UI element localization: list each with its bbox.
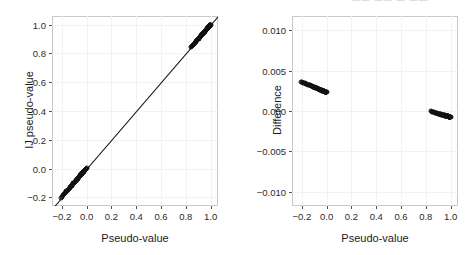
data-points-right [292,16,458,206]
x-tick-label: 0.2 [105,211,118,222]
x-tick-label: 0.6 [154,211,167,222]
x-tick-mark [302,206,303,209]
x-tick-mark [62,206,63,209]
y-tick-mark [49,25,52,26]
x-tick-mark [161,206,162,209]
top-edge-text-artifact: —— —— — —— [352,0,460,3]
x-tick-mark [211,206,212,209]
x-tick-mark [186,206,187,209]
y-tick-mark [49,197,52,198]
x-tick-mark [351,206,352,209]
x-tick-label: 0.2 [345,211,358,222]
data-point [84,166,89,171]
x-tick-label: 0.4 [130,211,143,222]
data-point [324,90,329,95]
x-tick-label: −0.2 [53,211,72,222]
data-point [208,22,213,27]
y-tick-mark [49,111,52,112]
x-tick-mark [376,206,377,209]
x-tick-mark [426,206,427,209]
x-tick-mark [327,206,328,209]
x-tick-label: 1.0 [444,211,457,222]
x-tick-label: 0.0 [80,211,93,222]
y-tick-label: −0.010 [248,186,286,197]
y-tick-label: 1.0 [18,19,46,30]
y-tick-mark [49,82,52,83]
y-tick-mark [289,111,292,112]
y-tick-mark [49,140,52,141]
x-tick-mark [451,206,452,209]
data-points-left [52,16,218,206]
x-tick-mark [87,206,88,209]
figure-canvas: —— —— — —— −0.20.00.20.40.60.81.0−0.20.0… [0,0,475,255]
axis-title-y-left: IJ pseudo-value [23,45,35,175]
x-tick-label: 0.6 [394,211,407,222]
x-tick-label: −0.2 [293,211,312,222]
x-tick-label: 0.0 [320,211,333,222]
x-tick-label: 0.8 [419,211,432,222]
panel-left-scatter [52,16,218,206]
panel-right-difference [292,16,458,206]
y-tick-label: −0.2 [18,192,46,203]
axis-title-x-right: Pseudo-value [292,232,458,244]
y-tick-mark [49,53,52,54]
axis-title-x-left: Pseudo-value [52,232,218,244]
data-point [448,114,453,119]
x-tick-label: 0.4 [370,211,383,222]
y-tick-mark [289,151,292,152]
x-tick-label: 0.8 [179,211,192,222]
y-tick-mark [49,169,52,170]
x-tick-label: 1.0 [204,211,217,222]
y-tick-label: 0.010 [248,25,286,36]
y-tick-mark [289,192,292,193]
axis-title-y-right: Difference [271,45,283,175]
x-tick-mark [401,206,402,209]
y-tick-mark [289,30,292,31]
x-tick-mark [111,206,112,209]
x-tick-mark [136,206,137,209]
y-tick-mark [289,71,292,72]
